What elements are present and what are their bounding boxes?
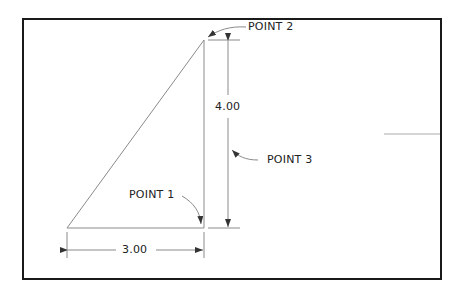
point-1-label: POINT 1 <box>129 188 174 201</box>
vertical-dimension <box>208 40 240 228</box>
leaders <box>182 27 258 224</box>
point-3-label: POINT 3 <box>267 153 312 166</box>
point-2-label: POINT 2 <box>248 20 293 33</box>
triangle-drawing <box>0 0 462 296</box>
vertical-dimension-value: 4.00 <box>215 100 240 113</box>
horizontal-dimension-value: 3.00 <box>122 243 147 256</box>
